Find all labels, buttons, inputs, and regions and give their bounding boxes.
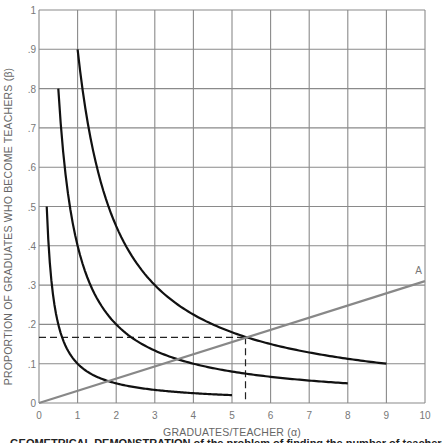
y-axis-label: PROPORTION OF GRADUATES WHO BECOME TEACH… [2,68,14,386]
x-tick-label: 0 [36,410,42,421]
x-tick-label: 6 [268,410,274,421]
chart-figure: 0123456789100.1.2.3.4.5.6.7.8.91AGRADUAT… [0,0,442,443]
x-tick-label: 9 [384,410,390,421]
y-tick-label: .3 [28,280,37,291]
x-tick-label: 3 [152,410,158,421]
y-tick-label: .7 [28,123,37,134]
line-a-label: A [415,265,422,276]
y-tick-label: .9 [28,44,37,55]
caption-text: GEOMETRICAL DEMONSTRATION of the problem… [10,437,442,443]
x-tick-label: 8 [345,410,351,421]
y-tick-label: .8 [28,84,37,95]
y-tick-label: .5 [28,202,37,213]
y-tick-label: .2 [28,319,37,330]
y-tick-label: .1 [28,359,37,370]
x-tick-label: 7 [306,410,312,421]
x-tick-label: 4 [191,410,197,421]
y-tick-label: 1 [30,5,36,16]
x-tick-label: 2 [113,410,119,421]
y-tick-label: .4 [28,241,37,252]
y-tick-label: .6 [28,162,37,173]
x-tick-label: 10 [419,410,431,421]
x-tick-label: 1 [75,410,81,421]
hyperbola-curve [58,89,348,384]
grid [39,10,425,403]
caption-cutoff: GEOMETRICAL DEMONSTRATION of the problem… [0,437,442,443]
x-tick-label: 5 [229,410,235,421]
y-tick-label: 0 [30,398,36,409]
